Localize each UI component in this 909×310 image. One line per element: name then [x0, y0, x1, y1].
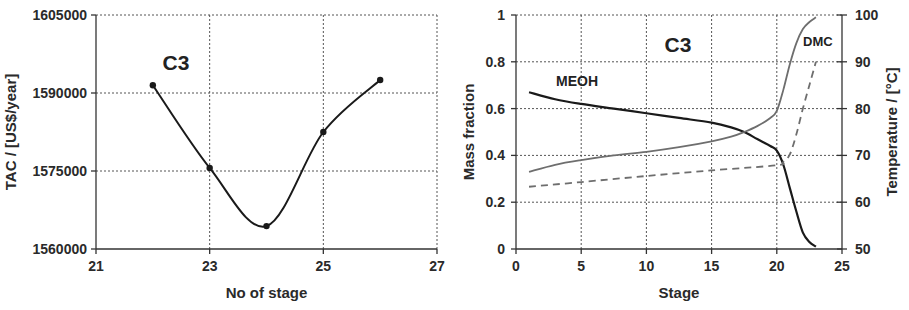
data-point	[206, 165, 212, 171]
y-axis-title: Mass fraction	[460, 84, 477, 181]
chart-annotation: C3	[665, 33, 692, 56]
y-axis-title: TAC / [US$/year]	[2, 74, 19, 190]
y-tick-label: 0.2	[486, 194, 506, 210]
profile-chart: 051015202500.20.40.60.815060708090100MEO…	[460, 7, 900, 301]
x-tick-label: 21	[88, 258, 104, 274]
x-tick-label: 0	[512, 258, 520, 274]
x-axis-title: No of stage	[226, 284, 308, 301]
x-tick-label: 10	[639, 258, 655, 274]
y2-tick-label: 100	[855, 7, 879, 23]
data-point	[150, 82, 156, 88]
x-tick-label: 15	[704, 258, 720, 274]
x-tick-label: 5	[577, 258, 585, 274]
y-tick-label: 0.8	[486, 54, 506, 70]
x-tick-label: 25	[316, 258, 332, 274]
x-tick-label: 20	[769, 258, 785, 274]
data-point	[377, 77, 383, 83]
series-label-meoh: MEOH	[556, 73, 598, 89]
y-tick-label: 1560000	[32, 241, 87, 257]
y2-tick-label: 70	[855, 147, 871, 163]
data-point	[263, 223, 269, 229]
y-tick-label: 1	[497, 7, 505, 23]
y-tick-label: 0	[497, 241, 505, 257]
y-tick-label: 1575000	[32, 163, 87, 179]
y2-tick-label: 50	[855, 241, 871, 257]
data-point	[320, 129, 326, 135]
figure: 212325271560000157500015900001605000C3No…	[0, 0, 909, 310]
y2-tick-label: 60	[855, 194, 871, 210]
y2-tick-label: 80	[855, 101, 871, 117]
y2-tick-label: 90	[855, 54, 871, 70]
x-axis-title: Stage	[659, 284, 700, 301]
chart-annotation: C3	[163, 51, 190, 74]
x-tick-label: 25	[834, 258, 850, 274]
y-tick-label: 0.4	[486, 147, 506, 163]
y-tick-label: 1605000	[32, 7, 87, 23]
y2-axis-title: Temperature / [°C]	[883, 67, 900, 196]
tac-chart: 212325271560000157500015900001605000C3No…	[2, 7, 445, 301]
y-tick-label: 1590000	[32, 85, 87, 101]
x-tick-label: 27	[429, 258, 445, 274]
series-line-tac	[153, 80, 380, 227]
series-label-dmc: DMC	[803, 34, 833, 49]
x-tick-label: 23	[202, 258, 218, 274]
y-tick-label: 0.6	[486, 101, 506, 117]
